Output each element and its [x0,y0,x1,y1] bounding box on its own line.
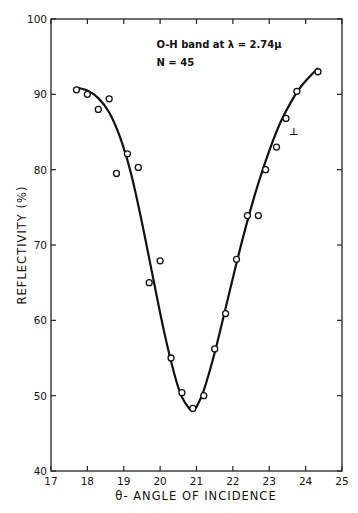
data-point [263,167,269,173]
fitted-curve [76,68,318,410]
plot-frame [51,19,342,471]
data-point [244,213,250,219]
x-tick-label: 22 [226,475,239,487]
fit-line [76,68,318,410]
annotation-text: N = 45 [156,57,194,68]
data-point [190,405,196,411]
y-tick-label: 100 [27,13,47,25]
data-point [106,96,112,102]
data-point [274,144,280,150]
data-point [168,355,174,361]
y-tick-label: 90 [34,88,47,100]
data-points [73,69,321,412]
data-point [315,69,321,75]
data-point [201,393,207,399]
x-tick-label: 23 [263,475,276,487]
x-tick-label: 18 [81,475,94,487]
data-point [73,87,79,93]
data-point [146,280,152,286]
data-point [283,115,289,121]
y-tick-label: 80 [34,164,47,176]
x-axis-title: θ- ANGLE OF INCIDENCE [115,489,276,503]
data-point [95,106,101,112]
data-point [135,164,141,170]
data-point [113,170,119,176]
x-tick-label: 24 [299,475,313,487]
y-axis-title: REFLECTIVITY (%) [15,186,29,305]
x-tick-label: 19 [117,475,130,487]
annotations: O-H band at λ = 2.74μN = 45⊥ [156,39,298,137]
y-tick-label: 40 [34,465,47,477]
data-point [212,346,218,352]
y-tick-label: 50 [34,390,47,402]
x-tick-label: 20 [153,475,166,487]
data-point [234,256,240,262]
data-point [84,91,90,97]
axis-ticks: 171819202122232425405060708090100 [27,13,349,487]
y-tick-label: 70 [34,239,47,251]
annotation-text: O-H band at λ = 2.74μ [156,39,282,50]
y-tick-label: 60 [34,314,47,326]
data-point [294,88,300,94]
x-tick-label: 21 [190,475,203,487]
data-point [157,258,163,264]
plot-axes [51,19,342,471]
annotation-text: ⊥ [289,126,298,137]
reflectivity-chart: 171819202122232425405060708090100 O-H ba… [0,0,358,513]
data-point [124,151,130,157]
data-point [255,213,261,219]
x-tick-label: 25 [335,475,348,487]
data-point [223,311,229,317]
data-point [179,390,185,396]
